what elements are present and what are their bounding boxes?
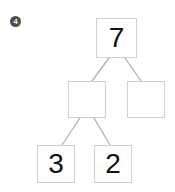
tree-node-middle-right[interactable] (127, 81, 165, 118)
tree-node-root-value: 7 (109, 24, 125, 52)
tree-node-leaf-right[interactable]: 2 (94, 145, 132, 183)
edge-mid-left-to-leaf-right (94, 118, 110, 145)
problem-number-marker: 4 (10, 16, 21, 27)
edge-root-to-mid-left (92, 58, 109, 81)
tree-node-leaf-left-value: 3 (48, 150, 64, 178)
tree-node-root[interactable]: 7 (96, 18, 137, 58)
edge-mid-left-to-leaf-left (62, 118, 80, 145)
tree-node-leaf-right-value: 2 (105, 150, 121, 178)
number-bond-worksheet: 4 7 3 2 (0, 0, 175, 192)
tree-node-leaf-left[interactable]: 3 (37, 145, 75, 183)
edge-root-to-mid-right (125, 58, 141, 81)
tree-node-middle-left[interactable] (68, 81, 106, 118)
